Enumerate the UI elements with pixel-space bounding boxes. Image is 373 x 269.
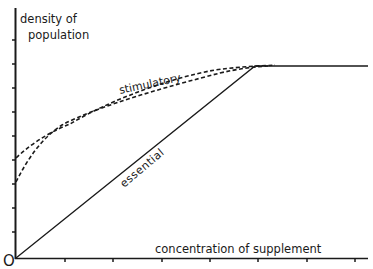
- y-axis-label-line2: population: [28, 28, 89, 42]
- population-density-diagram: density of population concentration of s…: [0, 0, 373, 269]
- essential-curve: [16, 66, 368, 258]
- y-axis-label-line1: density of: [20, 12, 78, 26]
- x-axis-label: concentration of supplement: [155, 242, 322, 256]
- essential-label: essential: [118, 146, 167, 190]
- stimulatory-label: stimulatory: [118, 71, 182, 97]
- origin-label: O: [3, 252, 15, 269]
